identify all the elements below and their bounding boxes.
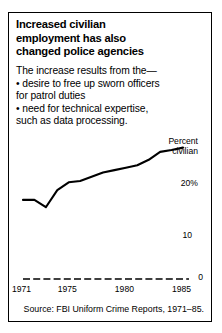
y-axis-title-line-2: civilian xyxy=(128,147,198,157)
y-tick-label-0: 0 xyxy=(183,272,203,282)
x-tick-label-1975: 1975 xyxy=(58,284,77,294)
x-tick-label-1980: 1980 xyxy=(115,284,134,294)
source-note: Source: FBI Uniform Crime Reports, 1971–… xyxy=(9,304,204,314)
line-chart-plot xyxy=(9,13,212,322)
x-tick-label-1985: 1985 xyxy=(172,284,191,294)
y-tick-label-10: 10 xyxy=(152,230,192,240)
chart-figure: Increased civilian employment has also c… xyxy=(8,12,212,322)
y-tick-label-20: 20% xyxy=(158,178,198,188)
y-axis-title: Percent civilian xyxy=(128,137,198,157)
x-tick-label-1971: 1971 xyxy=(12,284,31,294)
